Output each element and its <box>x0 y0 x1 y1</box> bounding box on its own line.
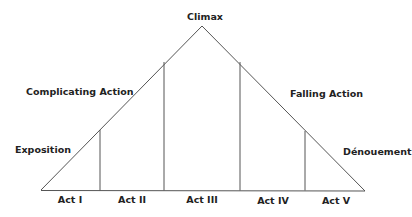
baseline <box>41 191 365 192</box>
label-climax: Climax <box>187 11 223 22</box>
act-label-3: Act III <box>186 194 217 205</box>
pyramid-diagram <box>0 0 412 217</box>
label-falling-action: Falling Action <box>290 88 363 99</box>
label-exposition: Exposition <box>15 144 71 155</box>
label-denouement: Dénouement <box>343 146 411 157</box>
pyramid-outline <box>41 26 365 191</box>
act-label-1: Act I <box>58 194 82 205</box>
label-complicating-action: Complicating Action <box>26 86 134 97</box>
act-label-2: Act II <box>118 194 146 205</box>
act-label-5: Act V <box>322 195 350 206</box>
act-label-4: Act IV <box>257 195 289 206</box>
